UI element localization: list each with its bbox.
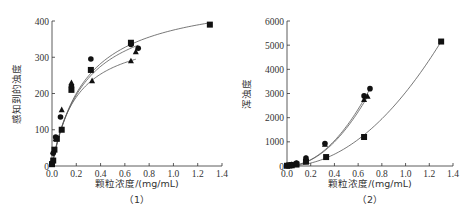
data-point-triangle: [59, 107, 65, 113]
chart-figure: 0.00.20.40.60.81.01.21.40100200300400颗粒浓…: [0, 0, 476, 223]
chart-panel-2: 0.00.20.40.60.81.01.21.40100020003000400…: [241, 17, 459, 206]
panel-label: （2）: [357, 194, 383, 205]
y-tick-label: 300: [35, 53, 50, 63]
data-point-circle: [88, 56, 94, 62]
data-point-circle: [367, 86, 373, 92]
y-tick-label: 1000: [265, 137, 284, 147]
fit-curve: [52, 45, 138, 166]
y-tick-label: 200: [35, 89, 50, 99]
data-point-square: [361, 134, 367, 140]
y-axis-label: 感知到的浊度: [11, 64, 22, 124]
y-axis-label: 浑浊度: [241, 79, 252, 109]
x-tick-label: 1.4: [447, 169, 459, 179]
y-tick-label: 3000: [265, 89, 284, 99]
y-tick-label: 6000: [265, 17, 284, 27]
x-tick-label: 1.4: [216, 169, 228, 179]
x-tick-label: 1.2: [423, 169, 435, 179]
data-point-circle: [58, 114, 64, 120]
y-tick-label: 400: [35, 17, 50, 27]
data-point-square: [323, 154, 329, 160]
fit-curve: [52, 59, 136, 166]
y-tick-label: 5000: [265, 41, 284, 51]
data-point-square: [88, 67, 94, 73]
y-tick-label: 100: [35, 125, 50, 135]
x-tick-label: 1.2: [192, 169, 204, 179]
panel-label: （1）: [124, 194, 150, 205]
x-tick-label: 0.2: [70, 169, 82, 179]
data-point-circle: [128, 42, 134, 48]
data-point-square: [59, 127, 65, 133]
x-tick-label: 0.2: [305, 169, 317, 179]
data-point-square: [207, 22, 213, 28]
y-tick-label: 0: [44, 162, 49, 172]
data-point-square: [438, 39, 444, 45]
y-tick-label: 4000: [265, 65, 284, 75]
data-point-triangle: [68, 79, 74, 85]
fit-curve: [287, 42, 441, 166]
chart-panel-1: 0.00.20.40.60.81.01.21.40100200300400颗粒浓…: [11, 17, 228, 206]
x-axis-label: 颗粒浓度/(mg/mL): [95, 178, 179, 189]
data-point-triangle: [128, 58, 134, 64]
x-axis-label: 颗粒浓度/(mg/mL): [328, 178, 412, 189]
y-tick-label: 2000: [265, 113, 284, 123]
y-tick-label: 0: [279, 162, 284, 172]
